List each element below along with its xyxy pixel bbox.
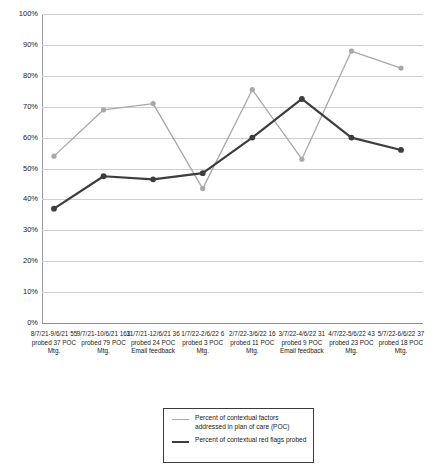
data-point [398, 147, 404, 153]
x-axis-tick-label: 3/7/22-4/6/22 31 probed 9 POC Email feed… [275, 330, 329, 356]
legend-item-poc: Percent of contextual factors addressed … [168, 414, 309, 431]
y-axis-tick-label: 50% [0, 165, 38, 173]
data-point [51, 154, 56, 159]
y-axis-tick-label: 30% [0, 227, 38, 235]
x-axis-tick-label: 11/7/21-12/6/21 36 probed 24 POC Email f… [126, 330, 180, 356]
y-axis-tick-label: 70% [0, 103, 38, 111]
x-axis-tick-label: 9/7/21-10/6/21 163 probed 79 POC Mtg. [77, 330, 131, 356]
y-axis-tick-label: 90% [0, 41, 38, 49]
legend-item-red-flags: Percent of contextual red flags probed [168, 436, 309, 447]
x-axis-tick-label: 2/7/22-3/6/22 16 probed 11 POC Mtg. [225, 330, 279, 356]
y-axis-tick-label: 80% [0, 72, 38, 80]
legend-swatch-line-icon [172, 416, 189, 425]
chart-legend: Percent of contextual factors addressed … [163, 408, 314, 463]
data-point [349, 135, 355, 141]
legend-swatch-line-icon [172, 438, 189, 447]
data-point [51, 206, 57, 212]
data-point [151, 101, 156, 106]
series-line [54, 51, 401, 189]
x-axis-labels: 8/7/21-9/6/21 55 probed 37 POC Mtg.9/7/2… [42, 330, 423, 392]
plot-area [42, 14, 423, 323]
y-axis-tick-label: 60% [0, 134, 38, 142]
y-axis-tick-label: 20% [0, 257, 38, 265]
data-point [398, 65, 403, 70]
data-point [101, 173, 107, 179]
y-axis-tick-label: 10% [0, 288, 38, 296]
legend-label: Percent of contextual red flags probed [195, 436, 306, 445]
x-axis-tick-label: 5/7/22-6/6/22 37 probed 18 POC Mtg. [374, 330, 428, 356]
data-point [150, 176, 156, 182]
y-axis-tick-label: 100% [0, 10, 38, 18]
data-point [200, 170, 206, 176]
data-point [250, 87, 255, 92]
x-axis-tick-label: 4/7/22-5/6/22 43 probed 23 POC Mtg. [324, 330, 378, 356]
data-point [101, 107, 106, 112]
line-chart: 100%90%80%70%60%50%40%30%20%10%0% 8/7/21… [0, 0, 435, 471]
series-line [54, 99, 401, 209]
y-axis-tick-label: 0% [0, 319, 38, 327]
x-axis-tick-label: 8/7/21-9/6/21 55 probed 37 POC Mtg. [27, 330, 81, 356]
data-point [249, 135, 255, 141]
legend-label: Percent of contextual factors addressed … [195, 414, 307, 431]
data-point [349, 48, 354, 53]
gridline [42, 323, 423, 324]
data-point [200, 186, 205, 191]
data-point [299, 96, 305, 102]
series-layer [42, 14, 423, 323]
y-axis-tick-label: 40% [0, 196, 38, 204]
data-point [299, 157, 304, 162]
x-axis-tick-label: 1/7/22-2/6/22 6 probed 3 POC Mtg. [176, 330, 230, 356]
